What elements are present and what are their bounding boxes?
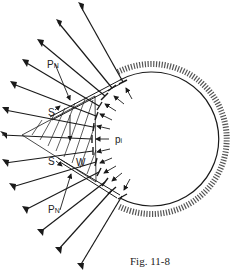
figure: PN S pi W S PN Fig. 11-8: [0, 0, 232, 272]
w-label: W: [76, 158, 85, 168]
pn-top-label: PN: [47, 60, 59, 70]
tunnel-outline: [118, 64, 227, 214]
figure-caption: Fig. 11-8: [130, 255, 170, 267]
s-bottom-label: S: [48, 157, 55, 167]
pi-label: pi: [115, 135, 122, 145]
pn-bottom-label: PN: [48, 205, 60, 215]
s-top-label: S: [48, 108, 55, 118]
